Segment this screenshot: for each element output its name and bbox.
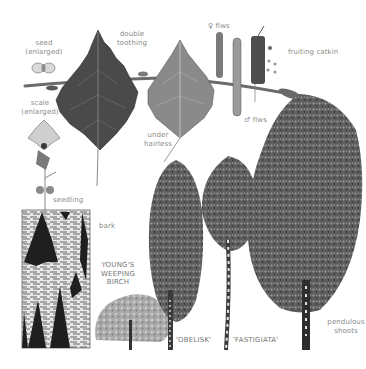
bark-panel-illustration (22, 210, 90, 348)
youngs-weeping-birch-label: YOUNG'S WEEPING BIRCH (98, 261, 138, 287)
bark-label: bark (99, 222, 129, 231)
under-hairless-label: under hairless (138, 131, 178, 148)
seedling-label: seedling (53, 196, 93, 205)
seed-label: seed (enlarged) (22, 39, 66, 56)
fastigiata-tree-illustration (202, 156, 256, 350)
catkins-illustration (216, 26, 277, 116)
mature-birch-illustration (248, 94, 362, 350)
female-flowers-label: ♀ flws (208, 22, 238, 31)
upper-leaf-illustration (56, 30, 138, 186)
fastigiata-label: 'FASTIGIATA' (233, 336, 283, 345)
scale-illustration (28, 120, 60, 150)
birch-illustration-plate: seed (enlarged) double toothing ♀ flws f… (0, 0, 366, 369)
fruiting-catkin-label: fruiting catkin (288, 48, 358, 57)
pendulous-shoots-label: pendulous shoots (326, 318, 366, 335)
double-toothing-label: double toothing (112, 30, 152, 47)
obelisk-label: 'OBELISK' (176, 336, 216, 345)
scale-label: scale (enlarged) (18, 99, 62, 116)
male-flowers-label: ♂ flws (244, 116, 274, 125)
seed-illustration (32, 63, 55, 73)
